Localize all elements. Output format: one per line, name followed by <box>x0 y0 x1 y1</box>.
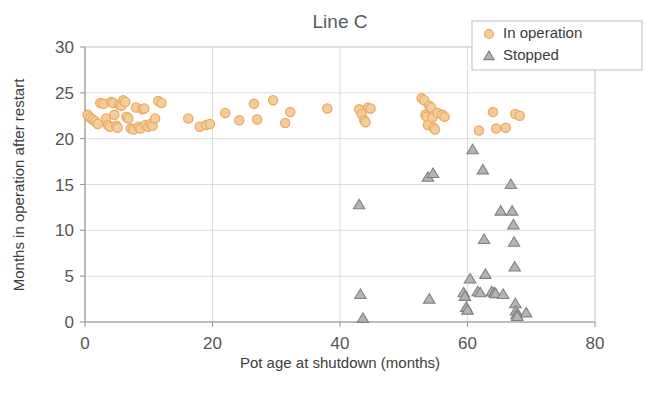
data-point-circle <box>488 107 497 116</box>
series-stopped-points <box>353 144 531 322</box>
chart-title: Line C <box>313 11 368 32</box>
gridlines <box>85 47 595 322</box>
data-point-circle <box>515 111 524 120</box>
data-point-circle <box>492 124 501 133</box>
data-point-circle <box>430 125 439 134</box>
data-point-triangle <box>467 144 478 153</box>
data-point-circle <box>151 114 160 123</box>
data-point-circle <box>474 126 483 135</box>
data-point-circle <box>184 114 193 123</box>
data-point-triangle <box>508 237 519 246</box>
x-tick-label: 0 <box>80 334 89 353</box>
x-tick-label: 40 <box>331 334 350 353</box>
data-point-circle <box>281 118 290 127</box>
data-point-triangle <box>357 313 368 322</box>
data-point-triangle <box>509 262 520 271</box>
data-point-circle <box>249 99 258 108</box>
x-tick-label: 80 <box>586 334 605 353</box>
scatter-chart: 051015202530 020406080 Line C Pot age at… <box>0 0 657 402</box>
legend-label-stopped: Stopped <box>503 46 559 63</box>
data-point-triangle <box>480 269 491 278</box>
data-point-circle <box>124 114 133 123</box>
data-point-circle <box>110 110 119 119</box>
data-point-triangle <box>424 294 435 303</box>
x-axis-tick-labels: 020406080 <box>80 334 604 353</box>
y-axis-tick-labels: 051015202530 <box>55 38 74 332</box>
y-tick-label: 10 <box>55 221 74 240</box>
data-point-circle <box>113 123 122 132</box>
chart-screenshot: 051015202530 020406080 Line C Pot age at… <box>0 0 657 402</box>
data-point-circle <box>205 119 214 128</box>
series-in-operation-points <box>83 94 524 135</box>
y-tick-label: 0 <box>65 313 74 332</box>
data-point-circle <box>93 119 102 128</box>
data-point-circle <box>253 115 262 124</box>
y-tick-label: 30 <box>55 38 74 57</box>
data-point-triangle <box>353 199 364 208</box>
data-point-circle <box>121 97 130 106</box>
x-tick-label: 60 <box>458 334 477 353</box>
y-tick-label: 15 <box>55 176 74 195</box>
data-point-triangle <box>478 234 489 243</box>
data-point-circle <box>268 96 277 105</box>
x-tick-label: 20 <box>203 334 222 353</box>
data-point-triangle <box>508 219 519 228</box>
data-point-triangle <box>506 206 517 215</box>
data-point-triangle <box>477 164 488 173</box>
data-point-circle <box>366 104 375 113</box>
axes <box>80 47 595 327</box>
data-point-circle <box>501 123 510 132</box>
data-point-circle <box>235 116 244 125</box>
data-point-circle <box>221 108 230 117</box>
data-point-circle <box>485 30 494 39</box>
data-point-circle <box>440 112 449 121</box>
x-axis-title: Pot age at shutdown (months) <box>240 354 440 371</box>
data-point-circle <box>157 98 166 107</box>
data-point-triangle <box>495 206 506 215</box>
y-tick-label: 20 <box>55 130 74 149</box>
legend[interactable]: In operationStopped <box>472 21 642 70</box>
data-point-circle <box>140 104 149 113</box>
data-point-circle <box>323 104 332 113</box>
y-tick-label: 25 <box>55 84 74 103</box>
data-point-triangle <box>520 307 531 316</box>
data-point-circle <box>286 107 295 116</box>
data-point-triangle <box>505 179 516 188</box>
data-point-circle <box>361 118 370 127</box>
y-axis-title: Months in operation after restart <box>10 78 27 291</box>
data-point-triangle <box>355 289 366 298</box>
y-tick-label: 5 <box>65 267 74 286</box>
data-point-triangle <box>464 273 475 282</box>
legend-label-in-operation: In operation <box>503 24 582 41</box>
